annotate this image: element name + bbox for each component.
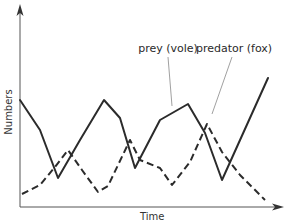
predator-series-line: [22, 124, 265, 200]
predator-annotation-label: predator (fox): [196, 42, 272, 55]
predator-leader-line: [212, 57, 232, 114]
x-axis-label: Time: [139, 211, 164, 222]
axes: [17, 4, 285, 211]
y-axis-label: Numbers: [3, 89, 14, 134]
prey-annotation-label: prey (vole): [138, 42, 198, 55]
predator-prey-chart: prey (vole) predator (fox) Numbers Time: [0, 0, 286, 223]
prey-leader-line: [168, 57, 172, 106]
